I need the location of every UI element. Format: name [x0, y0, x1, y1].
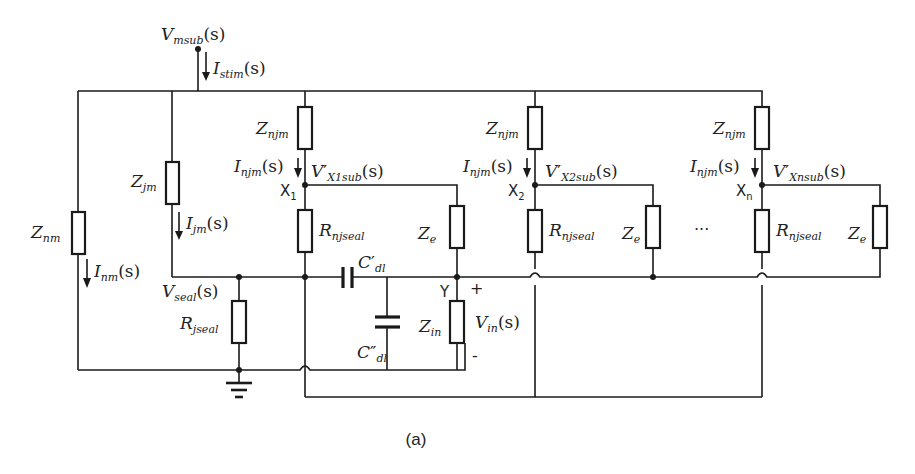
label-node-xn: Xn [736, 182, 753, 202]
label-node-x2: X2 [508, 182, 525, 202]
resistor-rjseal [232, 301, 246, 343]
label-rnjseal-2: Rnjseal [548, 220, 595, 243]
labels: Vmsub(s) Istim(s) Znm Inm(s) Zjm Ijm(s) … [30, 24, 867, 365]
resistor-rnjseal-1 [298, 210, 312, 252]
label-injm-2: Injm(s) [462, 156, 513, 179]
label-plus: + [470, 279, 483, 298]
capacitor-cdl-double-prime [375, 317, 400, 327]
capacitor-cdl-prime [343, 267, 352, 288]
circuit-diagram: Vmsub(s) Istim(s) Znm Inm(s) Zjm Ijm(s) … [0, 0, 915, 474]
label-rnjseal-n: Rnjseal [775, 220, 822, 243]
resistor-rnjseal-n [755, 210, 769, 252]
arrow-down-icon-inm [83, 259, 91, 288]
resistor-znjm-n [755, 107, 769, 149]
resistor-ze-1 [450, 206, 464, 248]
ground-icon [226, 370, 252, 397]
resistor-zjm [166, 162, 179, 204]
label-vx1sub: V′X1sub(s) [311, 161, 384, 184]
label-vseal: Vseal(s) [162, 281, 219, 304]
current-arrows [83, 52, 759, 288]
figure-caption: (a) [406, 430, 427, 449]
label-vin: Vin(s) [475, 312, 520, 335]
resistor-rnjseal-2 [528, 210, 542, 252]
resistor-zin [450, 301, 464, 343]
label-znjm-2: Znjm [485, 118, 519, 141]
label-injm-1: Injm(s) [233, 156, 284, 179]
label-minus: - [472, 346, 478, 365]
label-zjm: Zjm [130, 171, 157, 194]
arrow-down-icon-injm-2 [523, 158, 531, 178]
arrow-down-icon-injm-n [751, 158, 759, 178]
ellipsis: ··· [694, 220, 709, 239]
arrow-down-icon-injm-1 [294, 158, 302, 178]
label-ze-n: Ze [847, 223, 867, 246]
label-znjm-n: Znjm [712, 118, 746, 141]
resistor-ze-2 [646, 206, 660, 248]
label-node-y: Y [439, 283, 450, 301]
resistor-znjm-1 [298, 107, 312, 149]
label-cdl-double-prime: C″dl [357, 342, 387, 365]
resistor-znm [72, 212, 85, 254]
label-vx2sub: V′X2sub(s) [545, 161, 618, 184]
resistor-znjm-2 [528, 107, 542, 149]
components [72, 107, 887, 397]
label-rnjseal-1: Rnjseal [318, 220, 365, 243]
label-istim: Istim(s) [212, 58, 266, 81]
label-zin: Zin [418, 316, 441, 339]
label-ijm: Ijm(s) [185, 213, 229, 236]
label-vmsub: Vmsub(s) [161, 24, 225, 47]
label-ze-2: Ze [621, 223, 641, 246]
resistor-ze-n [873, 206, 887, 248]
label-injm-n: Injm(s) [689, 156, 740, 179]
arrow-down-icon-istim [202, 52, 210, 81]
arrow-down-icon-ijm [175, 212, 183, 240]
label-znjm-1: Znjm [255, 118, 289, 141]
label-node-x1: X1 [280, 182, 297, 202]
label-vxnsub: V′Xnsub(s) [773, 161, 846, 184]
label-rjseal: Rjseal [179, 313, 219, 336]
label-cdl-prime: C′dl [358, 252, 386, 275]
label-znm: Znm [30, 222, 60, 245]
label-ze-1: Ze [417, 223, 437, 246]
label-inm: Inm(s) [93, 261, 140, 284]
